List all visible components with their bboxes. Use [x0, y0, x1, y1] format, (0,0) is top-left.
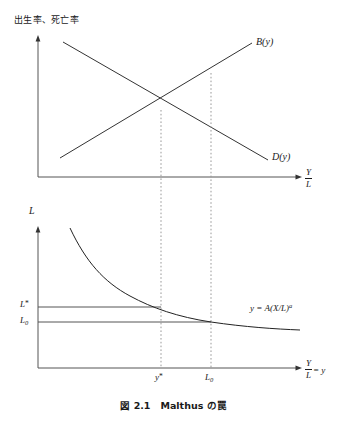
- birth-rate-curve: [60, 43, 252, 158]
- bottom-panel-x-axis-label: Y L = y: [305, 359, 325, 380]
- y-tick-l-star: L*: [20, 300, 29, 309]
- y-tick-l-star-mark: *: [25, 299, 29, 308]
- malthus-trap-figure: 出生率、死亡率 B(y) D(y) Y L L L* L0 y* L0 y = …: [0, 0, 347, 423]
- death-rate-curve-label: D(y): [272, 152, 290, 162]
- death-rate-curve: [63, 42, 268, 160]
- bottom-x-axis-numerator: Y: [305, 359, 312, 368]
- x-tick-l-zero-sub: 0: [210, 376, 213, 383]
- birth-rate-curve-label: B(y): [256, 37, 273, 47]
- figure-canvas: [0, 0, 347, 423]
- figure-caption: 図 2.1 Malthus の罠: [0, 398, 347, 412]
- top-x-axis-numerator: Y: [305, 168, 312, 177]
- y-tick-l-zero-sub: 0: [25, 319, 28, 326]
- production-curve-exponent: a: [289, 302, 292, 309]
- y-tick-l-zero: L0: [20, 316, 28, 326]
- bottom-x-axis-denominator: L: [305, 371, 312, 380]
- bottom-x-axis-tail: = y: [313, 365, 325, 375]
- production-curve: [70, 228, 300, 330]
- top-panel-x-axis-label: Y L: [305, 168, 312, 189]
- x-tick-y-star: y*: [155, 373, 163, 382]
- x-tick-l-zero: L0: [205, 373, 213, 383]
- top-panel-axes: [36, 35, 302, 179]
- production-curve-equation: y = A(X/L): [250, 303, 289, 313]
- production-curve-label: y = A(X/L)a: [250, 303, 292, 313]
- bottom-panel-y-axis-label: L: [29, 206, 35, 216]
- x-tick-y-star-mark: *: [159, 372, 163, 381]
- top-panel-y-axis-label: 出生率、死亡率: [14, 16, 79, 25]
- bottom-panel-axes: [36, 226, 302, 370]
- top-x-axis-denominator: L: [305, 180, 312, 189]
